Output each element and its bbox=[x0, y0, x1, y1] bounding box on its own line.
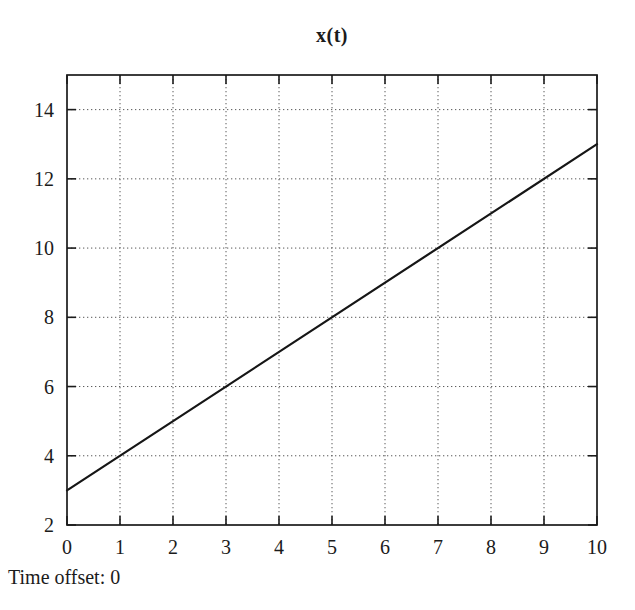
x-tick-label: 2 bbox=[168, 536, 178, 558]
y-tick-label: 10 bbox=[34, 237, 54, 259]
x-tick-label: 7 bbox=[433, 536, 443, 558]
x-tick-label: 3 bbox=[221, 536, 231, 558]
y-tick-label: 12 bbox=[34, 168, 54, 190]
x-tick-label: 4 bbox=[274, 536, 284, 558]
x-tick-label: 8 bbox=[486, 536, 496, 558]
x-tick-label: 1 bbox=[115, 536, 125, 558]
x-tick-label: 0 bbox=[62, 536, 72, 558]
y-tick-label: 14 bbox=[34, 99, 54, 121]
y-tick-label: 2 bbox=[44, 514, 54, 536]
time-offset-label: Time offset: 0 bbox=[8, 566, 120, 589]
y-tick-label: 6 bbox=[44, 376, 54, 398]
plot-area: 0123456789102468101214 bbox=[0, 0, 635, 610]
x-tick-label: 5 bbox=[327, 536, 337, 558]
x-tick-label: 6 bbox=[380, 536, 390, 558]
y-tick-label: 4 bbox=[44, 445, 54, 467]
x-tick-label: 10 bbox=[587, 536, 607, 558]
x-tick-label: 9 bbox=[539, 536, 549, 558]
scope-figure: x(t) 0123456789102468101214 Time offset:… bbox=[0, 0, 635, 610]
y-tick-label: 8 bbox=[44, 306, 54, 328]
